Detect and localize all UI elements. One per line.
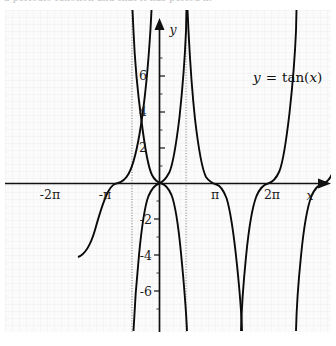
y-tick-label-minus-2: -2 (140, 212, 152, 227)
y-tick-label-2: 2 (139, 140, 147, 155)
scanned-text-fragment-line: a periodic function and that it has peri… (4, 0, 212, 3)
equation-y: y (252, 69, 261, 85)
y-axis-label: y (168, 22, 177, 37)
y-tick-label-4: 4 (139, 104, 147, 119)
equation-equals: = (266, 69, 277, 85)
equation-close: ) (317, 69, 322, 85)
curve-branch-partial-right (296, 169, 334, 331)
scanned-text-fragment: a periodic function and that it has peri… (0, 0, 336, 9)
equation-annotation: y=tan(x) (252, 69, 322, 85)
plot-canvas: 6 4 2 -2 -4 -6 -2π -π π 2π x y y=tan(x) (0, 9, 336, 346)
equation-func: tan( (282, 69, 309, 85)
svg-text:y=tan(x): y=tan(x) (252, 69, 322, 85)
x-tick-label-2pi: 2π (264, 187, 280, 202)
tangent-function-figure: 6 4 2 -2 -4 -6 -2π -π π 2π x y y=tan(x) (0, 9, 336, 346)
x-axis-label: x (306, 188, 313, 203)
y-tick-label-6: 6 (139, 68, 147, 83)
x-tick-label-minus-pi: -π (99, 187, 111, 202)
y-tick-label-minus-4: -4 (140, 248, 152, 263)
y-tick-label-minus-6: -6 (140, 284, 152, 299)
curve-branch-pi (188, 10, 243, 331)
x-tick-label-pi: π (211, 187, 219, 202)
x-tick-label-minus-2pi: -2π (40, 187, 60, 202)
curve-branch-2pi (241, 10, 297, 331)
y-axis-arrowhead (155, 18, 165, 30)
